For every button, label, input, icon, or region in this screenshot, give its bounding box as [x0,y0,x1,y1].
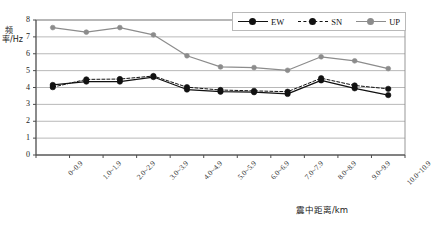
y-tick-label: 8 [16,15,30,24]
legend-swatch-ew-icon [238,17,268,26]
y-tick-label: 7 [16,32,30,41]
legend-label: UP [389,17,400,27]
legend-item-ew[interactable]: EW [238,17,284,27]
y-tick-label: 5 [16,66,30,75]
legend-item-up[interactable]: UP [356,17,400,27]
y-tick-label: 0 [16,150,30,159]
legend-swatch-sn-icon [298,17,328,26]
legend-label: EW [271,17,284,27]
legend-label: SN [331,17,342,27]
legend-item-sn[interactable]: SN [298,17,342,27]
legend-swatch-up-icon [356,17,386,26]
chart-legend: EWSNUP [232,12,406,31]
y-tick-label: 1 [16,133,30,142]
y-tick-label: 6 [16,49,30,58]
y-tick-label: 4 [16,83,30,92]
y-tick-label: 3 [16,99,30,108]
y-tick-label: 2 [16,116,30,125]
